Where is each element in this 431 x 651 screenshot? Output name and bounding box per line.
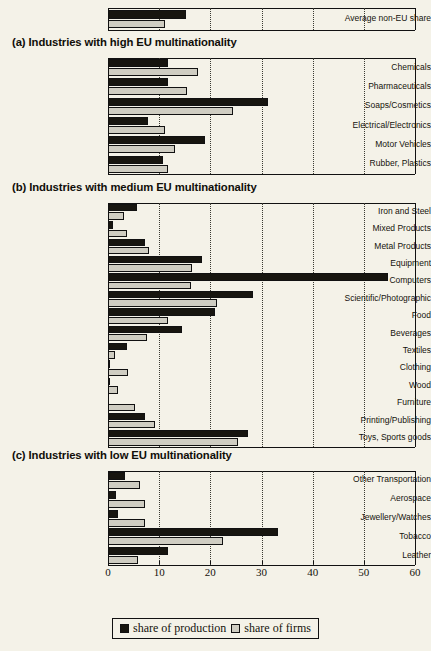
x-tick-50: 50 xyxy=(349,566,379,578)
legend-label-production: share of production xyxy=(133,621,226,636)
x-tick-mark-60 xyxy=(415,561,416,564)
x-tick-30: 30 xyxy=(247,566,277,578)
bar-firms xyxy=(108,519,145,527)
bar-production xyxy=(108,510,118,518)
legend-label-firms: share of firms xyxy=(244,621,311,636)
x-tick-mark-10 xyxy=(159,561,160,564)
multinationality-bar-chart: Average non-EU shareChemicalsPharmaceuti… xyxy=(0,0,431,651)
section-title-b: (b) Industries with medium EU multinatio… xyxy=(12,181,257,193)
x-tick-mark-0 xyxy=(108,561,109,564)
bar-firms xyxy=(108,500,145,508)
legend-entry-black: share of production xyxy=(120,621,226,636)
category-label: Jewellery/Watches xyxy=(329,513,431,522)
bar-production xyxy=(108,491,116,499)
legend-swatch-production xyxy=(120,624,129,633)
x-tick-mark-50 xyxy=(364,561,365,564)
category-label: Aerospace xyxy=(329,494,431,503)
gridline-40 xyxy=(313,471,314,565)
x-tick-60: 60 xyxy=(400,566,430,578)
bar-production xyxy=(108,472,125,480)
x-tick-40: 40 xyxy=(298,566,328,578)
gridline-30 xyxy=(262,471,263,565)
x-tick-mark-20 xyxy=(210,561,211,564)
panel-c: Other TransportationAerospaceJewellery/W… xyxy=(0,0,431,651)
legend-swatch-firms xyxy=(231,624,240,633)
category-label: Other Transportation xyxy=(329,475,431,484)
section-title-a: (a) Industries with high EU multinationa… xyxy=(12,36,237,48)
category-label: Leather xyxy=(329,551,431,560)
bar-production xyxy=(108,528,278,536)
bar-firms xyxy=(108,556,138,564)
legend-entry-gray: share of firms xyxy=(231,621,311,636)
x-tick-0: 0 xyxy=(93,566,123,578)
gridline-20 xyxy=(210,471,211,565)
x-tick-20: 20 xyxy=(195,566,225,578)
bar-production xyxy=(108,547,168,555)
x-tick-10: 10 xyxy=(144,566,174,578)
section-title-c: (c) Industries with low EU multinational… xyxy=(12,449,232,461)
bar-firms xyxy=(108,481,140,489)
category-label: Tobacco xyxy=(329,532,431,541)
chart-legend: share of productionshare of firms xyxy=(112,618,319,639)
bar-firms xyxy=(108,537,223,545)
x-tick-mark-40 xyxy=(313,561,314,564)
x-tick-mark-30 xyxy=(262,561,263,564)
